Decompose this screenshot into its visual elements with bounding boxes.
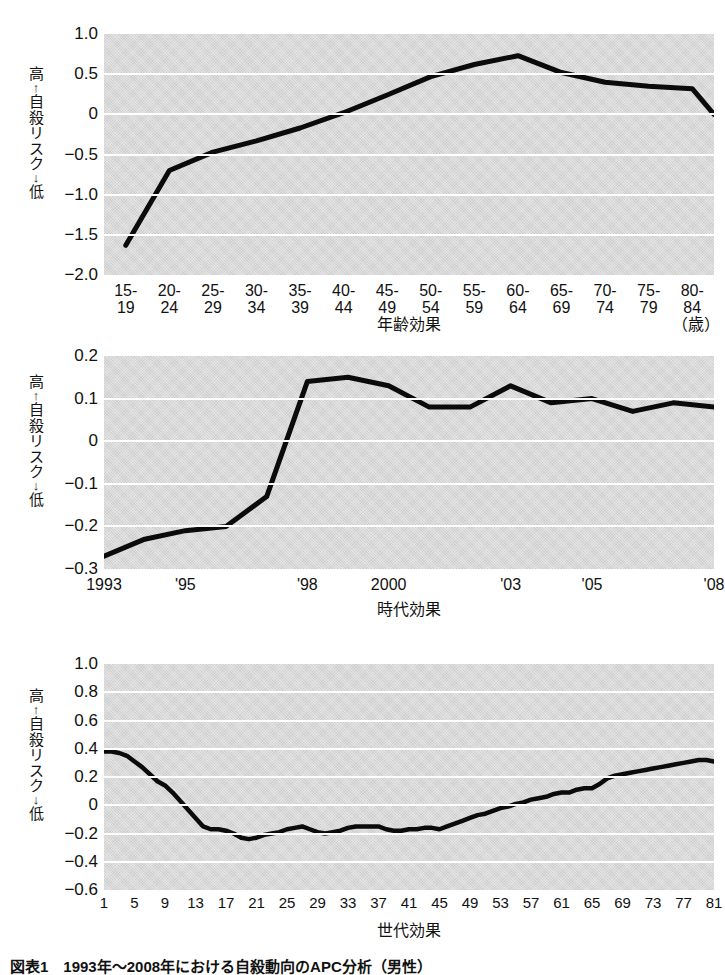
x-axis-tick-label: 25- 29 — [201, 282, 224, 316]
y-axis-tick-label: 0.2 — [74, 768, 98, 785]
gridline — [104, 525, 714, 527]
x-axis-tick-label: 30- 34 — [245, 282, 268, 316]
y-axis-tick-label: 0 — [89, 105, 98, 122]
x-axis-tick-label: 40- 44 — [332, 282, 355, 316]
y-axis-tick-label: 0.6 — [74, 712, 98, 729]
y-axis-tick-label: −2.0 — [64, 266, 98, 283]
gridline — [104, 234, 714, 236]
x-axis-title-cohort: 世代効果 — [377, 922, 441, 939]
x-axis-tick-label: 80- 84 — [681, 282, 704, 316]
plot-area-period — [104, 356, 714, 569]
x-axis-tick-label: 57 — [523, 895, 540, 911]
x-axis-tick-label: 37 — [370, 895, 387, 911]
data-line — [104, 377, 714, 556]
x-axis-tick-label: 55- 59 — [463, 282, 486, 316]
y-axis-caption-char: 高 — [26, 688, 46, 703]
y-axis-tick-label: 0.1 — [74, 390, 98, 407]
y-axis-caption-cohort: 高↑自殺リスク↓低 — [26, 688, 46, 822]
gridline — [104, 440, 714, 442]
x-axis-tick-label: '08 — [704, 576, 725, 593]
y-axis-caption-char: 高 — [26, 374, 46, 389]
x-axis-tick-label: 50- 54 — [419, 282, 442, 316]
gridline — [104, 73, 714, 75]
y-axis-caption-char: 殺 — [26, 110, 46, 125]
y-axis-tick-label: 0.4 — [74, 740, 98, 757]
gridline — [104, 804, 714, 806]
x-axis-tick-label: 1993 — [86, 576, 122, 593]
y-axis-caption-char: 低 — [26, 184, 46, 199]
x-axis-tick-label: 17 — [218, 895, 235, 911]
y-axis-tick-label: −0.3 — [64, 560, 98, 577]
line-series-period — [104, 356, 714, 569]
y-axis-tick-label: −0.1 — [64, 475, 98, 492]
y-axis-caption-char: ク — [26, 778, 46, 793]
x-axis-tick-label: 29 — [309, 895, 326, 911]
gridline — [104, 720, 714, 722]
y-axis-tick-label: −0.2 — [64, 825, 98, 842]
y-axis-caption-char: リ — [26, 747, 46, 762]
x-axis-tick-label: 81 — [706, 895, 723, 911]
y-axis-caption-char: 高 — [26, 66, 46, 81]
y-axis-tick-label: 1.0 — [74, 25, 98, 42]
gridline — [104, 483, 714, 485]
y-axis-caption-char: リ — [26, 433, 46, 448]
chart-panel-age-effect: 高↑自殺リスク↓低 1.00.50−0.5−1.0−1.5−2.0 15- 19… — [0, 0, 725, 320]
x-axis-tick-label: '03 — [500, 576, 521, 593]
x-axis-tick-label: 21 — [248, 895, 265, 911]
y-axis-caption-char: 低 — [26, 492, 46, 507]
x-axis-tick-label: 2000 — [371, 576, 407, 593]
y-axis-tick-label: −1.0 — [64, 186, 98, 203]
gridline — [104, 748, 714, 750]
y-axis-caption-period: 高↑自殺リスク↓低 — [26, 374, 46, 508]
x-axis-tick-label: 70- 74 — [594, 282, 617, 316]
y-axis-tick-label: 0.5 — [74, 65, 98, 82]
x-axis-tick-label: 33 — [340, 895, 357, 911]
y-axis-caption-char: ス — [26, 763, 46, 778]
x-axis-tick-label: 65 — [584, 895, 601, 911]
x-axis-tick-label: 65- 69 — [550, 282, 573, 316]
y-axis-caption-age: 高↑自殺リスク↓低 — [26, 66, 46, 200]
y-axis-caption-char: 自 — [26, 402, 46, 417]
y-axis-tick-label: 1.0 — [74, 655, 98, 672]
gridline — [104, 776, 714, 778]
chart-panel-period-effect: 高↑自殺リスク↓低 0.20.10−0.1−0.2−0.3 1993'95'98… — [0, 330, 725, 630]
gridline — [104, 861, 714, 863]
x-axis-tick-label: 15- 19 — [114, 282, 137, 316]
x-axis-tick-label: 61 — [553, 895, 570, 911]
y-axis-caption-char: ス — [26, 141, 46, 156]
y-axis-tick-label: 0 — [89, 796, 98, 813]
x-axis-tick-label: 1 — [100, 895, 108, 911]
gridline — [104, 113, 714, 115]
x-axis-tick-label: 25 — [279, 895, 296, 911]
x-axis-tick-label: 13 — [187, 895, 204, 911]
y-axis-caption-char: 自 — [26, 716, 46, 731]
y-axis-tick-label: −0.6 — [64, 881, 98, 898]
y-axis-caption-char: ス — [26, 449, 46, 464]
y-axis-caption-char: 殺 — [26, 418, 46, 433]
x-axis-tick-label: 45 — [431, 895, 448, 911]
y-axis-tick-label: 0 — [89, 432, 98, 449]
x-axis-tick-label: 60- 64 — [506, 282, 529, 316]
gridline — [104, 691, 714, 693]
chart-panel-cohort-effect: 高↑自殺リスク↓低 1.00.80.60.40.20−0.2−0.4−0.6 1… — [0, 640, 725, 971]
y-axis-tick-label: −1.5 — [64, 226, 98, 243]
y-axis-tick-label: −0.2 — [64, 517, 98, 534]
x-axis-tick-label: '95 — [175, 576, 196, 593]
y-axis-tick-label: −0.5 — [64, 146, 98, 163]
y-axis-tick-label: −0.4 — [64, 853, 98, 870]
data-line — [126, 56, 714, 246]
x-axis-tick-label: 69 — [614, 895, 631, 911]
x-axis-tick-label: '98 — [297, 576, 318, 593]
y-axis-tick-label: 0.2 — [74, 347, 98, 364]
gridline — [104, 833, 714, 835]
x-axis-tick-label: 20- 24 — [158, 282, 181, 316]
x-axis-tick-label: 45- 49 — [376, 282, 399, 316]
x-axis-tick-label: 5 — [130, 895, 138, 911]
x-axis-tick-label: 49 — [462, 895, 479, 911]
gridline — [104, 398, 714, 400]
figure-caption: 図表1 1993年～2008年における自殺動向のAPC分析（男性） — [10, 958, 432, 975]
y-axis-caption-char: ク — [26, 156, 46, 171]
data-line — [104, 752, 714, 840]
x-axis-tick-label: 77 — [675, 895, 692, 911]
